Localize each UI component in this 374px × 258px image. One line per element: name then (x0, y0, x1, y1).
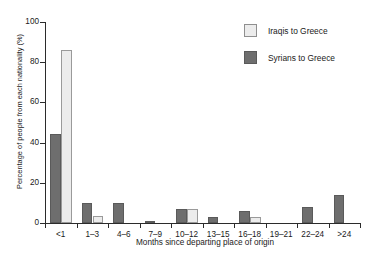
bar-syrians (334, 195, 345, 223)
chart-legend: Iraqis to Greece Syrians to Greece (244, 24, 335, 78)
y-tick-label: 80 (17, 58, 39, 66)
legend-label-syrians: Syrians to Greece (268, 53, 335, 63)
bar-syrians (145, 221, 156, 223)
bar-syrians (113, 203, 124, 223)
legend-item-iraqis: Iraqis to Greece (244, 24, 335, 37)
x-tick (297, 223, 298, 228)
legend-label-iraqis: Iraqis to Greece (268, 26, 328, 36)
bar-syrians (302, 207, 313, 223)
x-tick (108, 223, 109, 228)
y-tick-label: 60 (17, 98, 39, 106)
x-tick (234, 223, 235, 228)
bar-syrians (50, 134, 61, 223)
y-tick (40, 102, 45, 103)
bar-syrians (82, 203, 93, 223)
bar-iraqis (93, 216, 104, 223)
y-tick (40, 62, 45, 63)
legend-item-syrians: Syrians to Greece (244, 51, 335, 64)
legend-swatch-icon-iraqis (244, 24, 257, 37)
x-tick (171, 223, 172, 228)
y-tick (40, 22, 45, 23)
y-axis-line (45, 22, 46, 223)
x-tick (329, 223, 330, 228)
legend-swatch-icon-syrians (244, 51, 257, 64)
x-tick (77, 223, 78, 228)
bar-iraqis (250, 217, 261, 223)
y-tick-label: 0 (17, 219, 39, 227)
y-tick-label: 100 (17, 18, 39, 26)
bar-syrians (239, 211, 250, 223)
y-tick-label: 40 (17, 139, 39, 147)
y-tick-label: 20 (17, 179, 39, 187)
y-tick (40, 143, 45, 144)
bar-syrians (176, 209, 187, 223)
x-tick (360, 223, 361, 228)
bar-iraqis (61, 50, 72, 223)
bar-iraqis (187, 209, 198, 223)
x-axis-title: Months since departing place of origin (45, 238, 365, 247)
x-tick (45, 223, 46, 228)
x-tick (203, 223, 204, 228)
x-tick (140, 223, 141, 228)
bar-syrians (208, 217, 219, 223)
x-tick (266, 223, 267, 228)
bar-chart: Percentage of people from each nationali… (0, 0, 374, 258)
y-tick (40, 183, 45, 184)
